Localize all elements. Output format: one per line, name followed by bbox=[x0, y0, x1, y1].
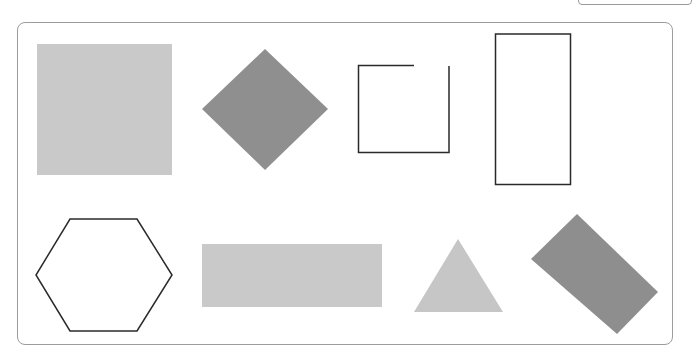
hexagon-shape bbox=[36, 219, 172, 331]
triangle-shape bbox=[414, 239, 503, 312]
tilted-rectangle-shape bbox=[531, 214, 658, 334]
large-square-shape bbox=[37, 44, 172, 175]
shapes-canvas bbox=[0, 0, 694, 364]
wide-rectangle-shape bbox=[202, 244, 382, 307]
diamond-shape bbox=[202, 49, 328, 170]
tall-rectangle-shape bbox=[496, 34, 571, 185]
open-square-shape bbox=[359, 66, 450, 153]
